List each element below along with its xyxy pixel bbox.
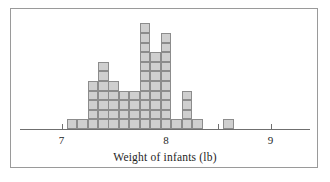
dotplot-cell	[98, 91, 109, 101]
dotplot-cell	[98, 81, 109, 91]
dotplot-cell	[182, 91, 193, 101]
dotplot-cell	[108, 91, 119, 101]
dotplot-cell	[129, 91, 140, 101]
x-tick-label: 8	[156, 134, 176, 146]
dotplot-cell	[88, 81, 99, 91]
dotplot-cell	[182, 110, 193, 120]
dotplot-cell	[88, 110, 99, 120]
dotplot-cell	[150, 81, 161, 91]
dotplot-cell	[108, 81, 119, 91]
dotplot-cell	[119, 91, 130, 101]
dotplot-cell	[161, 119, 172, 129]
dotplot-cell	[140, 52, 151, 62]
dotplot-cell	[129, 110, 140, 120]
dotplot-cell	[67, 119, 78, 129]
dotplot-cell	[161, 100, 172, 110]
dotplot-cell	[108, 110, 119, 120]
dotplot-cell	[108, 100, 119, 110]
dotplot-cell	[77, 119, 88, 129]
dotplot-cell	[161, 52, 172, 62]
dotplot-cell	[98, 119, 109, 129]
dotplot-cell	[140, 119, 151, 129]
dotplot-cell	[150, 100, 161, 110]
dotplot-cell	[129, 100, 140, 110]
axis-minor-tick	[62, 124, 63, 129]
dotplot-cell	[140, 62, 151, 72]
dotplot-cell	[161, 33, 172, 43]
dotplot-cell	[140, 81, 151, 91]
dotplot-cell	[182, 100, 193, 110]
figure-container: 789 Weight of infants (lb)	[0, 0, 330, 182]
dotplot-cell	[98, 62, 109, 72]
dotplot-cell	[150, 119, 161, 129]
x-tick-label: 7	[52, 134, 72, 146]
dotplot-cell	[119, 110, 130, 120]
dotplot-cell	[119, 100, 130, 110]
dotplot-cell	[150, 110, 161, 120]
axis-caption: Weight of infants (lb)	[0, 151, 330, 163]
dotplot-cell	[140, 23, 151, 33]
dotplot-cell	[223, 119, 234, 129]
dotplot-cell	[161, 110, 172, 120]
dotplot-cell	[150, 71, 161, 81]
dotplot-cell	[119, 119, 130, 129]
dotplot-cell	[98, 110, 109, 120]
dotplot-cell	[98, 100, 109, 110]
dotplot-cell	[140, 71, 151, 81]
dotplot-cell	[88, 100, 99, 110]
dotplot-cell	[150, 62, 161, 72]
dotplot-cell	[150, 91, 161, 101]
dotplot-cell	[182, 119, 193, 129]
dotplot-cell	[88, 119, 99, 129]
dotplot-cell	[140, 100, 151, 110]
dotplot-cell	[150, 52, 161, 62]
dotplot-cell	[161, 81, 172, 91]
x-tick-label: 9	[261, 134, 281, 146]
dotplot-cell	[108, 119, 119, 129]
dotplot-cell	[88, 91, 99, 101]
dotplot-cell	[140, 110, 151, 120]
dotplot-cell	[98, 71, 109, 81]
axis-minor-tick	[271, 124, 272, 129]
dotplot-cell	[161, 43, 172, 53]
dotplot-cell	[192, 119, 203, 129]
dotplot-cell	[171, 119, 182, 129]
dotplot-cell	[140, 43, 151, 53]
dotplot-cell	[129, 119, 140, 129]
dotplot-cell	[140, 33, 151, 43]
dotplot-cell	[161, 91, 172, 101]
dotplot-cell	[161, 71, 172, 81]
axis-minor-tick	[218, 124, 219, 129]
dotplot-cell	[140, 91, 151, 101]
dotplot-cell	[161, 62, 172, 72]
x-axis-line	[20, 129, 310, 130]
